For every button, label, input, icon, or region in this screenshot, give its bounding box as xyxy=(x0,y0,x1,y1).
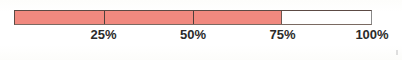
progress-fill xyxy=(15,11,282,24)
progress-divider-50 xyxy=(193,11,194,24)
tick-label-25: 25% xyxy=(90,28,116,42)
progress-gauge[interactable] xyxy=(14,10,372,25)
tick-label-100: 100% xyxy=(355,28,388,42)
tick-label-50: 50% xyxy=(180,28,206,42)
scan-artifact-speck xyxy=(396,50,398,55)
progress-divider-25 xyxy=(104,11,105,24)
tick-label-75: 75% xyxy=(269,28,295,42)
progress-bar-figure: 25% 50% 75% 100% xyxy=(0,0,402,60)
